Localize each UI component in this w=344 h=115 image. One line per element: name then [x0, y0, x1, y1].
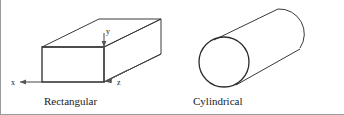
cylinder-top-edge: [214, 9, 278, 40]
z-axis-label: z: [117, 78, 121, 87]
cylinder-shape: Cylindrical: [193, 9, 304, 107]
cylinder-bottom-edge: [236, 49, 300, 85]
cylindrical-caption: Cylindrical: [193, 95, 243, 107]
geometry-figure: x y z Rectangular: [0, 0, 344, 115]
y-axis-indicator: [102, 33, 107, 82]
x-axis-arrowhead-icon: [20, 80, 26, 85]
y-axis-label: y: [106, 27, 110, 36]
x-axis-label: x: [11, 78, 15, 87]
cylinder-far-cap: [278, 9, 304, 48]
cylinder-near-face: [199, 37, 249, 87]
prism-top-face: [42, 19, 161, 47]
x-axis-indicator: [20, 80, 42, 85]
prism-front-face: [42, 47, 104, 82]
figure-container: x y z Rectangular: [0, 0, 344, 115]
rectangular-prism-shape: x y z Rectangular: [11, 19, 161, 107]
prism-right-face: [104, 19, 161, 82]
rectangular-caption: Rectangular: [44, 95, 97, 107]
